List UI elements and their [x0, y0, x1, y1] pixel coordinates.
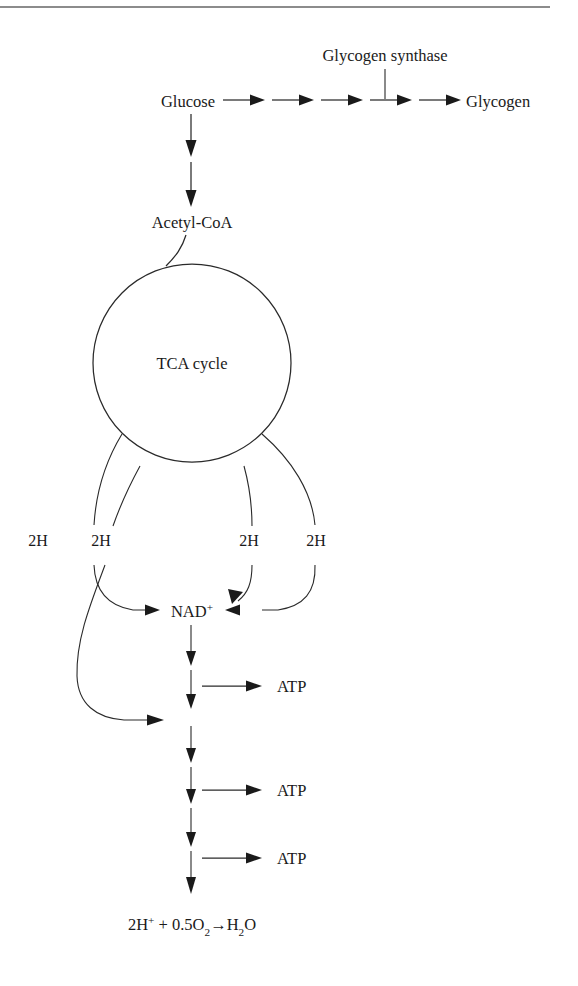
nad-inflow-arrowhead-left	[145, 605, 160, 616]
nad-superscript: +	[207, 601, 213, 613]
water-eq-part3-tail: O	[244, 915, 256, 934]
glycolysis-arrow-2	[186, 162, 197, 207]
atp-label-3: ATP	[277, 849, 306, 868]
pathway-figure: Glycogen synthase Glucose Glycogen	[0, 0, 578, 986]
glycogen-synthase-label: Glycogen synthase	[322, 46, 447, 65]
atp-branch-1	[202, 681, 262, 692]
chain-arrow-6	[186, 851, 196, 894]
glycolysis-arrow-1	[186, 114, 197, 157]
nad-inflow-arrowhead-right	[225, 605, 240, 616]
chain-arrow-3	[186, 726, 196, 763]
glucose-to-acetylcoa-chain	[186, 114, 197, 207]
chain-arrow-5	[186, 808, 196, 847]
glycogenesis-arrow-5	[419, 95, 461, 106]
glycogenesis-arrow-1	[223, 95, 265, 106]
atp-label-1: ATP	[277, 677, 306, 696]
hydrogen-branch-4	[262, 434, 315, 610]
atp-label-2: ATP	[277, 781, 306, 800]
nad-inflow-arrowhead-diagonal	[228, 589, 243, 604]
chain-arrow-1	[186, 625, 196, 666]
hydrogen-label-4: 2H	[306, 532, 326, 549]
acetyl-coa-label: Acetyl-CoA	[152, 213, 233, 232]
water-eq-part3: H	[227, 915, 239, 934]
water-eq-part1: 2H	[128, 915, 148, 934]
hydrogen-branch-2	[77, 466, 152, 720]
water-eq-part2: + 0.5O	[154, 915, 204, 934]
atp-branch-3	[202, 853, 262, 864]
nad-base: NAD	[171, 602, 207, 621]
hydrogen-label-2: 2H	[91, 532, 111, 549]
nad-plus-label: NAD+	[171, 601, 213, 621]
water-eq-arrow: →	[210, 915, 227, 934]
glucose-label: Glucose	[161, 92, 215, 111]
glycogenesis-arrow-3	[321, 95, 363, 106]
chain-arrow-4	[186, 767, 196, 804]
pathway-diagram-canvas: Glycogen synthase Glucose Glycogen	[0, 0, 578, 986]
chain-arrow-2	[186, 670, 196, 709]
atp-branch-2	[202, 785, 262, 796]
glycogenesis-arrow-4	[370, 95, 412, 106]
glycogenesis-arrow-chain	[223, 95, 461, 106]
chain-inflow-arrowhead-branch2	[147, 715, 164, 726]
acetylcoa-to-tca-connector	[166, 235, 186, 266]
glycogen-label: Glycogen	[466, 92, 530, 111]
hydrogen-branch-1	[94, 434, 150, 610]
water-equation-label: 2H+ + 0.5O2→H2O	[128, 914, 256, 938]
hydrogen-label-1: 2H	[28, 532, 48, 549]
tca-cycle-label: TCA cycle	[156, 354, 227, 373]
respiratory-chain	[186, 625, 196, 894]
glycogenesis-arrow-2	[272, 95, 314, 106]
hydrogen-label-3: 2H	[239, 532, 259, 549]
